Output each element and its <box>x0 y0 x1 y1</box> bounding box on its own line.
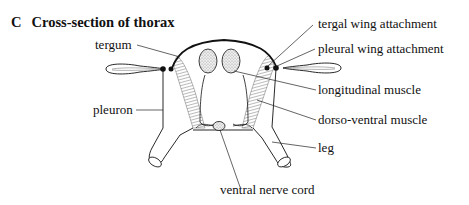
left-wing <box>106 64 164 74</box>
ventral-nerve-cord <box>213 122 225 131</box>
inner-body-outline <box>200 75 248 126</box>
thorax-cross-section-figure: CCross-section of thorax <box>0 0 469 205</box>
label-tergal-wing-attachment: tergal wing attachment <box>318 17 437 30</box>
leader-pleural-wing-attachment <box>277 49 315 66</box>
label-pleural-wing-attachment: pleural wing attachment <box>318 42 444 55</box>
label-tergum: tergum <box>95 38 132 51</box>
label-pleuron: pleuron <box>93 103 133 116</box>
leader-tergum <box>137 45 180 57</box>
label-ventral-nerve-cord: ventral nerve cord <box>220 183 315 196</box>
right-wing <box>283 63 341 73</box>
right-tergal-wing-attachment-dot <box>265 66 270 71</box>
left-longitudinal-muscle <box>199 49 217 73</box>
left-tergal-wing-attachment-dot <box>169 67 174 72</box>
right-pleural-wing-attachment-dot <box>273 65 279 71</box>
left-pleural-wing-attachment-dot <box>160 66 166 72</box>
label-longitudinal-muscle: longitudinal muscle <box>318 83 421 96</box>
leader-leg <box>272 142 316 148</box>
leader-dorso-ventral-muscle <box>257 100 316 120</box>
leader-ventral-nerve-cord <box>220 130 240 187</box>
right-longitudinal-muscle <box>222 49 240 73</box>
label-leg: leg <box>318 141 334 154</box>
label-dorso-ventral-muscle: dorso-ventral muscle <box>318 113 427 126</box>
